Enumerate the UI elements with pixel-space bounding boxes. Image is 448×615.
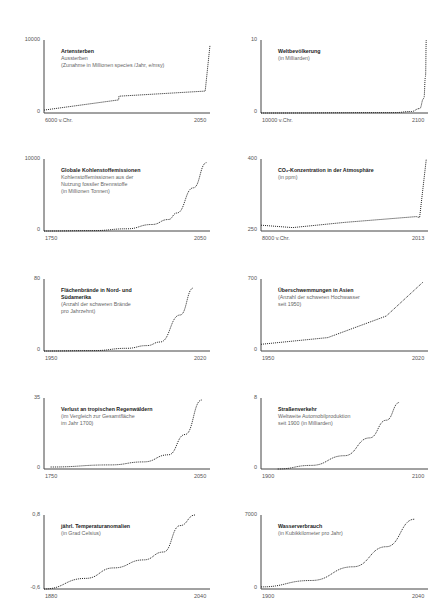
chart-caption: Wasserverbrauch (in Kubikkilometer pro J…	[278, 523, 398, 537]
x-tick-start: 1900	[262, 593, 274, 599]
y-tick-max: 7000	[227, 511, 257, 517]
y-tick-min: 0	[227, 584, 257, 590]
chart-subtitle: (in Kubikkilometer pro Jahr)	[278, 530, 398, 537]
chart-title: Wasserverbrauch	[278, 523, 398, 530]
x-tick-end: 2040	[412, 593, 424, 599]
chart-panel-9: 7000 0 1900 2040 Wasserverbrauch (in Kub…	[0, 0, 448, 615]
